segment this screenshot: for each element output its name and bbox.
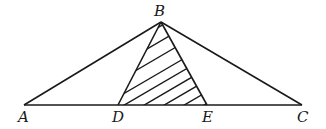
- label-d: D: [112, 110, 124, 125]
- label-b: B: [154, 4, 165, 19]
- label-c: C: [297, 110, 308, 125]
- segment-ab: [24, 22, 161, 105]
- segment-bc: [161, 22, 302, 105]
- segment-be: [161, 22, 207, 105]
- label-a: A: [18, 110, 29, 125]
- label-e: E: [202, 110, 213, 125]
